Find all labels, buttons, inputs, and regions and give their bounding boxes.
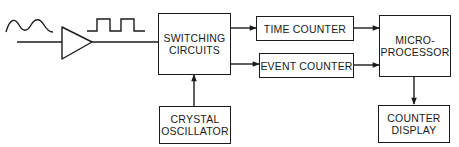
crystal-oscillator-label: CRYSTAL OSCILLATOR (161, 113, 229, 137)
crystal-oscillator-block: CRYSTAL OSCILLATOR (159, 106, 231, 144)
time-counter-block: TIME COUNTER (256, 16, 354, 41)
microprocessor-block: MICRO- PROCESSOR (379, 15, 451, 77)
sine-wave-icon (6, 20, 53, 32)
microprocessor-label: MICRO- PROCESSOR (381, 34, 450, 58)
counter-display-block: COUNTER DISPLAY (378, 105, 450, 143)
counter-display-label: COUNTER DISPLAY (387, 112, 440, 136)
amplifier-icon (62, 27, 92, 59)
event-counter-label: EVENT COUNTER (260, 60, 352, 72)
square-wave-icon (87, 19, 145, 31)
switching-circuits-block: SWITCHING CIRCUITS (158, 13, 231, 75)
switching-circuits-label: SWITCHING CIRCUITS (164, 32, 226, 56)
event-counter-block: EVENT COUNTER (259, 53, 354, 78)
time-counter-label: TIME COUNTER (264, 23, 346, 35)
